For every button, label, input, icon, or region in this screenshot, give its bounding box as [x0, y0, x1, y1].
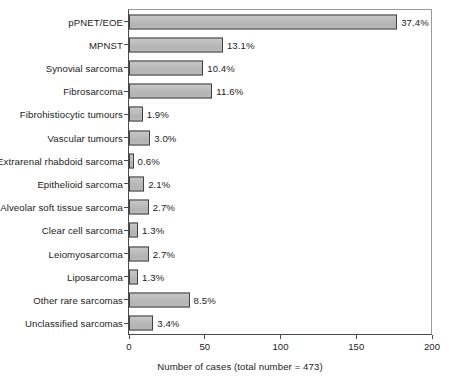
x-axis-tick	[432, 335, 433, 339]
x-axis-tick-label: 200	[424, 341, 440, 352]
x-axis-tick	[204, 335, 205, 339]
x-axis-title: Number of cases (total number = 473)	[0, 361, 452, 372]
x-axis-tick	[356, 335, 357, 339]
x-axis: 050100150200 Number of cases (total numb…	[0, 0, 452, 386]
x-axis-tick-label: 100	[272, 341, 288, 352]
x-axis-tick-label: 50	[199, 341, 210, 352]
x-axis-tick-label: 0	[126, 341, 131, 352]
x-axis-tick	[280, 335, 281, 339]
x-axis-tick	[129, 335, 130, 339]
x-axis-tick-label: 150	[348, 341, 364, 352]
bar-chart: pPNET/EOE37.4%MPNST13.1%Synovial sarcoma…	[0, 0, 452, 386]
